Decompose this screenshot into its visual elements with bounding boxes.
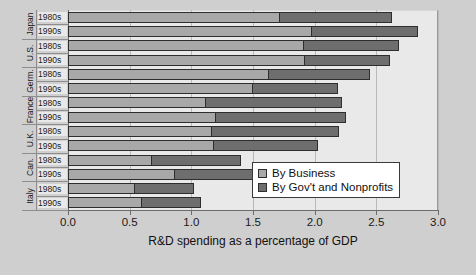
legend-label-business: By Business [272,167,335,179]
decade-separator [36,53,68,54]
decade-separator [36,110,68,111]
bar-segment-business[interactable] [68,26,312,37]
x-tick [376,210,377,215]
decade-label: 1980s [38,184,67,194]
bar-segment-government[interactable] [206,97,342,108]
x-tick [68,210,69,215]
bar-segment-government[interactable] [253,83,338,94]
bar-segment-government[interactable] [269,69,370,80]
bar-segment-government[interactable] [312,26,418,37]
bar-segment-government[interactable] [304,40,399,51]
decade-label: 1990s [38,84,67,94]
x-tick-label: 0.5 [110,216,150,228]
x-tick-label: 2.0 [295,216,335,228]
bar-segment-business[interactable] [68,97,206,108]
decade-label: 1980s [38,155,67,165]
country-separator [22,210,68,211]
decade-label: 1990s [38,26,67,36]
bar-segment-business[interactable] [68,40,304,51]
bar-segment-government[interactable] [152,155,241,166]
decade-label: 1980s [38,69,67,79]
legend-swatch-government [258,183,267,192]
bar-segment-government[interactable] [142,197,201,208]
bar-segment-business[interactable] [68,126,212,137]
x-tick [191,210,192,215]
chart-legend[interactable]: By Business By Gov't and Nonprofits [252,162,400,198]
bar-segment-business[interactable] [68,12,280,23]
chart-figure: 1980s1990sJapan1980s1990sU.S.1980s1990sG… [0,0,476,275]
bar-segment-business[interactable] [68,140,214,151]
bar-segment-business[interactable] [68,155,152,166]
x-tick [130,210,131,215]
x-tick-label: 1.0 [171,216,211,228]
decade-separator [36,81,68,82]
legend-label-government: By Gov't and Nonprofits [272,181,393,193]
decade-label: 1990s [38,112,67,122]
x-tick [438,210,439,215]
bar-segment-government[interactable] [305,55,390,66]
decade-label: 1990s [38,169,67,179]
decade-separator [36,167,68,168]
bar-segment-business[interactable] [68,112,216,123]
decade-label: 1980s [38,41,67,51]
bar-segment-business[interactable] [68,69,269,80]
decade-label: 1990s [38,55,67,65]
x-tick [315,210,316,215]
x-tick-label: 1.5 [233,216,273,228]
x-tick-label: 3.0 [418,216,458,228]
x-axis-title: R&D spending as a percentage of GDP [68,234,438,248]
bar-segment-business[interactable] [68,197,142,208]
legend-item-government[interactable]: By Gov't and Nonprofits [258,180,393,194]
x-tick [253,210,254,215]
legend-swatch-business [258,169,267,178]
decade-label: 1980s [38,126,67,136]
decade-separator [36,139,68,140]
bar-segment-business[interactable] [68,55,305,66]
decade-label: 1980s [38,98,67,108]
x-tick-label: 0.0 [48,216,88,228]
decade-label: 1990s [38,198,67,208]
bar-segment-business[interactable] [68,183,135,194]
decade-label: 1980s [38,12,67,22]
gridline [438,10,439,210]
x-tick-label: 2.5 [356,216,396,228]
bar-segment-government[interactable] [212,126,339,137]
bar-segment-government[interactable] [135,183,194,194]
decade-label: 1990s [38,141,67,151]
decade-separator [36,24,68,25]
bar-segment-business[interactable] [68,83,253,94]
decade-separator [36,196,68,197]
bar-segment-government[interactable] [216,112,346,123]
bar-segment-business[interactable] [68,169,175,180]
bar-segment-government[interactable] [280,12,392,23]
bar-segment-government[interactable] [214,140,319,151]
legend-item-business[interactable]: By Business [258,166,393,180]
